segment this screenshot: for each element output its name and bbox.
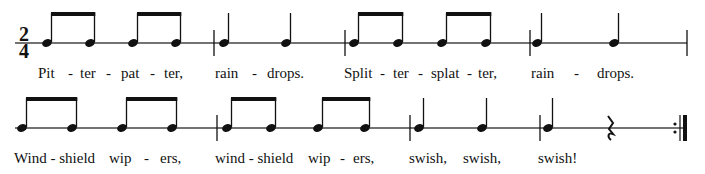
lyric-syllable: ter — [80, 66, 96, 81]
beam — [26, 97, 77, 101]
lyric-syllable: Split — [344, 66, 372, 81]
lyric-syllable: - — [144, 151, 149, 166]
lyric-syllable: rain — [531, 66, 554, 81]
beam — [446, 12, 491, 16]
lyric-syllable: ers, — [353, 151, 374, 166]
lyric-syllable: swish! — [538, 151, 577, 166]
lyric-syllable: - — [150, 66, 155, 81]
lyric-syllable: ers, — [160, 151, 181, 166]
lyric-syllable: rain — [215, 66, 238, 81]
lyric-syllable: ter, — [478, 66, 497, 81]
lyric-syllable: swish, — [409, 151, 447, 166]
beam — [126, 97, 177, 101]
lyric-syllable: splat — [431, 66, 459, 81]
lyric-syllable: wip — [109, 151, 132, 166]
lyric-syllable: - — [574, 66, 579, 81]
lyric-syllable: - — [380, 66, 385, 81]
lyric-syllable: Wind - shield — [14, 151, 95, 166]
lyric-syllable: swish, — [463, 151, 501, 166]
lyric-syllable: drops. — [597, 66, 634, 81]
lyric-syllable: - — [418, 66, 423, 81]
repeat-dot — [673, 130, 676, 133]
lyric-syllable: ter — [393, 66, 409, 81]
beam — [137, 12, 181, 16]
music-score: 24 — [0, 0, 705, 174]
lyric-syllable: - — [340, 151, 345, 166]
lyric-syllable: - — [106, 66, 111, 81]
lyric-syllable: - — [467, 66, 472, 81]
beam — [322, 97, 370, 101]
lyric-syllable: pat — [121, 66, 139, 81]
lyric-syllable: - — [68, 66, 73, 81]
time-signature-bottom: 4 — [19, 40, 29, 62]
barline-thick — [683, 115, 687, 141]
beam — [51, 12, 95, 16]
beam — [358, 12, 403, 16]
lyric-syllable: Pit — [38, 66, 55, 81]
lyric-syllable: - — [252, 66, 257, 81]
repeat-dot — [673, 122, 676, 125]
lyric-syllable: wind - shield — [215, 151, 293, 166]
lyric-syllable: drops. — [267, 66, 304, 81]
lyric-syllable: wip — [308, 151, 331, 166]
beam — [231, 97, 276, 101]
lyric-syllable: ter, — [164, 66, 183, 81]
